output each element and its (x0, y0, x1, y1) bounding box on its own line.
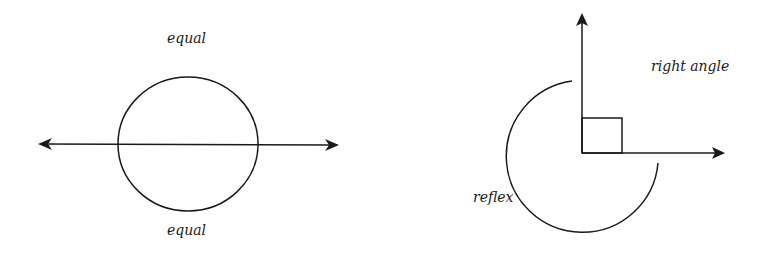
diagram-canvas (0, 0, 763, 257)
bisecting-line (44, 144, 333, 145)
right-angle-label: right angle (651, 58, 729, 74)
angle-figure (506, 13, 725, 232)
reflex-label: reflex (473, 189, 514, 205)
bisected-circle-figure (38, 77, 339, 211)
equal-label-top: equal (167, 30, 206, 46)
equal-label-bottom: equal (167, 222, 206, 238)
right-angle-marker (582, 118, 622, 153)
